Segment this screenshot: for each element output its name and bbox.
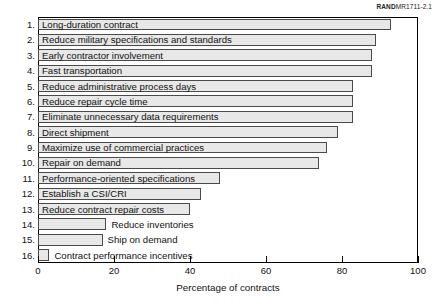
bar-label: Long-duration contract: [38, 17, 138, 32]
bar-row: 10.Repair on demand: [0, 155, 437, 170]
bar-row: 3.Early contractor involvement: [0, 48, 437, 63]
bar-row-number: 13.: [1, 202, 35, 217]
x-axis-tick: [266, 256, 267, 263]
bar-row-number: 8.: [1, 125, 35, 140]
bar-row-number: 4.: [1, 63, 35, 78]
bar-label: Early contractor involvement: [38, 48, 163, 63]
bar-row-number: 12.: [1, 186, 35, 201]
bar-row: 13.Reduce contract repair costs: [0, 202, 437, 217]
bar-row-number: 3.: [1, 48, 35, 63]
bar-label: Establish a CSI/CRI: [38, 186, 127, 201]
bar-row-number: 14.: [1, 217, 35, 232]
bar-row: 5.Reduce administrative process days: [0, 79, 437, 94]
x-axis-tick: [190, 256, 191, 263]
x-axis-tick-label: 60: [261, 265, 272, 276]
bar-label: Fast transportation: [38, 63, 122, 78]
bar-label: Reduce inventories: [106, 217, 193, 232]
bar-row: 14.Reduce inventories: [0, 217, 437, 232]
x-axis-title: Percentage of contracts: [38, 282, 418, 293]
bar-row-number: 10.: [1, 155, 35, 170]
bar-row: 16.Contract performance incentives: [0, 248, 437, 263]
bar-row-number: 11.: [1, 171, 35, 186]
bar-row: 15.Ship on demand: [0, 232, 437, 247]
bar-row-number: 7.: [1, 109, 35, 124]
bar-row-number: 2.: [1, 32, 35, 47]
bar: [38, 249, 49, 261]
bar-label: Repair on demand: [38, 155, 121, 170]
bar-label: Performance-oriented specifications: [38, 171, 195, 186]
figure-id-code: MR1711-2.1: [396, 3, 432, 10]
bar-label: Direct shipment: [38, 125, 109, 140]
bar-label: Contract performance incentives: [49, 248, 192, 263]
bar-row: 7.Eliminate unnecessary data requirement…: [0, 109, 437, 124]
bar-label: Ship on demand: [103, 232, 178, 247]
x-axis-tick-label: 40: [185, 265, 196, 276]
bar-row: 11.Performance-oriented specifications: [0, 171, 437, 186]
figure-container: RANDMR1711-2.1 1.Long-duration contract2…: [0, 0, 437, 306]
x-axis-tick: [38, 256, 39, 263]
figure-id: RANDMR1711-2.1: [377, 3, 432, 10]
bar-row: 2.Reduce military specifications and sta…: [0, 32, 437, 47]
x-axis-tick-label: 20: [109, 265, 120, 276]
bar-label: Reduce repair cycle time: [38, 94, 148, 109]
bar-row-number: 15.: [1, 232, 35, 247]
bar-row-number: 16.: [1, 248, 35, 263]
bar-row: 9.Maximize use of commercial practices: [0, 140, 437, 155]
bar-row: 6.Reduce repair cycle time: [0, 94, 437, 109]
figure-id-brand: RAND: [377, 3, 396, 10]
x-axis: 020406080100 Percentage of contracts: [38, 263, 418, 303]
bar-row-number: 9.: [1, 140, 35, 155]
x-axis-tick: [418, 256, 419, 263]
bar-label: Maximize use of commercial practices: [38, 140, 204, 155]
x-axis-tick-label: 80: [337, 265, 348, 276]
bar-row: 4.Fast transportation: [0, 63, 437, 78]
x-axis-tick: [342, 256, 343, 263]
x-axis-tick-label: 0: [35, 265, 40, 276]
bar-label: Reduce contract repair costs: [38, 202, 164, 217]
bar-row-number: 1.: [1, 17, 35, 32]
bar-label: Reduce administrative process days: [38, 79, 196, 94]
bar-row-number: 6.: [1, 94, 35, 109]
x-axis-tick: [114, 256, 115, 263]
bar-row: 12.Establish a CSI/CRI: [0, 186, 437, 201]
bar-label: Reduce military specifications and stand…: [38, 32, 232, 47]
bar-row: 8.Direct shipment: [0, 125, 437, 140]
bar-row: 1.Long-duration contract: [0, 17, 437, 32]
bar-label: Eliminate unnecessary data requirements: [38, 109, 219, 124]
bar: [38, 234, 103, 246]
bar: [38, 218, 106, 230]
bar-row-number: 5.: [1, 79, 35, 94]
x-axis-tick-label: 100: [410, 265, 426, 276]
